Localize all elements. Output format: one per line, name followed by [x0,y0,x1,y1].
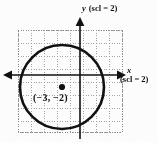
graph-canvas [0,0,157,143]
circle-graph-figure: y(scl = 2) x (scl = 2) (−3, −2) [0,0,157,143]
center-point-label: (−3, −2) [33,93,68,104]
y-axis-label: y(scl = 2) [82,4,117,13]
y-axis-scale-label: (scl = 2) [89,3,117,13]
scan-grain-overlay [0,0,157,143]
y-axis-label-symbol: y [82,3,86,13]
x-axis-scale-label: (scl = 2) [120,75,148,84]
